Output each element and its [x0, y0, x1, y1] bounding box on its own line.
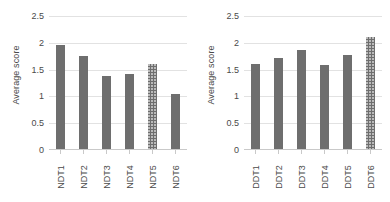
- x-label-slot: NDT1: [49, 156, 72, 200]
- bar-slot: [49, 16, 72, 149]
- x-axis-label: DDT5: [343, 165, 353, 189]
- x-tick-slot: [49, 150, 72, 155]
- bar-group-ndt: [49, 16, 187, 149]
- x-label-slot: DDT5: [336, 156, 359, 200]
- bar-slot: [359, 16, 382, 149]
- x-tick-slot: [118, 150, 141, 155]
- y-tick-label: 2.5: [31, 11, 44, 21]
- bar-slot: [336, 16, 359, 149]
- x-tick-slot: [290, 150, 313, 155]
- x-tick-mark: [106, 150, 107, 154]
- x-axis-tick-marks-ddt: [244, 150, 382, 155]
- bar-slot: [290, 16, 313, 149]
- x-tick-slot: [313, 150, 336, 155]
- y-axis-tick-labels-ndt: 00.511.522.5: [20, 16, 46, 150]
- bar-slot: [72, 16, 95, 149]
- x-tick-mark: [347, 150, 348, 154]
- x-tick-mark: [152, 150, 153, 154]
- bar-slot: [141, 16, 164, 149]
- y-tick-label: 1: [39, 91, 44, 101]
- x-tick-slot: [244, 150, 267, 155]
- bar-ndt4[interactable]: [125, 74, 134, 149]
- bar-ddt1[interactable]: [251, 64, 260, 149]
- dual-bar-chart-figure: Average score 00.511.522.5 NDT1NDT2NDT3N…: [0, 0, 390, 202]
- plot-area-ddt: [244, 16, 382, 150]
- x-tick-mark: [278, 150, 279, 154]
- y-tick-label: 0: [39, 145, 44, 155]
- x-axis-label: NDT1: [56, 165, 66, 189]
- y-tick-label: 0.5: [226, 118, 239, 128]
- x-axis-label: NDT5: [148, 165, 158, 189]
- bar-slot: [164, 16, 187, 149]
- bar-ndt1[interactable]: [56, 45, 65, 149]
- x-tick-slot: [267, 150, 290, 155]
- chart-panel-ddt: Average score 00.511.522.5 DDT1DDT2DDT3D…: [195, 0, 390, 202]
- bar-ndt2[interactable]: [79, 56, 88, 149]
- bar-slot: [313, 16, 336, 149]
- x-label-slot: NDT3: [95, 156, 118, 200]
- x-tick-mark: [175, 150, 176, 154]
- bar-ndt6[interactable]: [171, 94, 180, 149]
- y-tick-label: 0.5: [31, 118, 44, 128]
- bar-ndt5[interactable]: [148, 64, 157, 149]
- x-label-slot: DDT3: [290, 156, 313, 200]
- bar-group-ddt: [244, 16, 382, 149]
- x-tick-slot: [359, 150, 382, 155]
- x-axis-labels-ndt: NDT1NDT2NDT3NDT4NDT5NDT6: [49, 156, 187, 200]
- y-axis-tick-labels-ddt: 00.511.522.5: [215, 16, 241, 150]
- y-tick-label: 2: [39, 38, 44, 48]
- x-label-slot: NDT6: [164, 156, 187, 200]
- x-tick-mark: [129, 150, 130, 154]
- x-axis-label: DDT1: [251, 165, 261, 189]
- x-axis-labels-ddt: DDT1DDT2DDT3DDT4DDT5DDT6: [244, 156, 382, 200]
- x-tick-slot: [72, 150, 95, 155]
- x-tick-slot: [95, 150, 118, 155]
- bar-ndt3[interactable]: [102, 76, 111, 149]
- x-axis-tick-marks-ndt: [49, 150, 187, 155]
- y-tick-label: 1.5: [226, 65, 239, 75]
- x-label-slot: DDT2: [267, 156, 290, 200]
- x-label-slot: NDT2: [72, 156, 95, 200]
- x-axis-label: NDT4: [125, 165, 135, 189]
- x-axis-label: NDT3: [102, 165, 112, 189]
- x-label-slot: DDT1: [244, 156, 267, 200]
- y-tick-label: 1: [234, 91, 239, 101]
- x-axis-label: DDT6: [366, 165, 376, 189]
- x-axis-label: NDT6: [171, 165, 181, 189]
- x-tick-slot: [141, 150, 164, 155]
- plot-area-ndt: [49, 16, 187, 150]
- x-axis-label: DDT4: [320, 165, 330, 189]
- x-axis-label: NDT2: [79, 165, 89, 189]
- x-axis-label: DDT2: [274, 165, 284, 189]
- bar-slot: [118, 16, 141, 149]
- bar-slot: [95, 16, 118, 149]
- bar-ddt3[interactable]: [297, 50, 306, 149]
- x-tick-mark: [255, 150, 256, 154]
- bar-ddt2[interactable]: [274, 58, 283, 150]
- x-label-slot: NDT5: [141, 156, 164, 200]
- chart-panel-ndt: Average score 00.511.522.5 NDT1NDT2NDT3N…: [0, 0, 195, 202]
- x-label-slot: NDT4: [118, 156, 141, 200]
- x-tick-mark: [60, 150, 61, 154]
- x-tick-slot: [164, 150, 187, 155]
- bar-ddt4[interactable]: [320, 65, 329, 149]
- x-label-slot: DDT4: [313, 156, 336, 200]
- x-tick-slot: [336, 150, 359, 155]
- bar-slot: [244, 16, 267, 149]
- x-tick-mark: [370, 150, 371, 154]
- y-tick-label: 0: [234, 145, 239, 155]
- bar-ddt6[interactable]: [366, 37, 375, 149]
- x-tick-mark: [324, 150, 325, 154]
- bar-slot: [267, 16, 290, 149]
- y-tick-label: 2.5: [226, 11, 239, 21]
- x-label-slot: DDT6: [359, 156, 382, 200]
- bar-ddt5[interactable]: [343, 55, 352, 149]
- x-tick-mark: [83, 150, 84, 154]
- x-tick-mark: [301, 150, 302, 154]
- y-tick-label: 2: [234, 38, 239, 48]
- y-tick-label: 1.5: [31, 65, 44, 75]
- x-axis-label: DDT3: [297, 165, 307, 189]
